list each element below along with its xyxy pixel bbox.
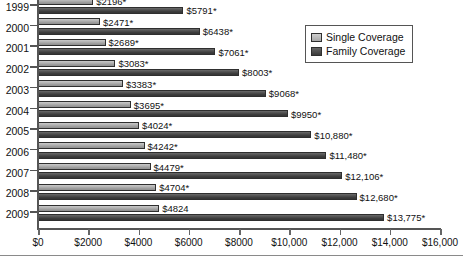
- bar-label-family-2008: $12,680*: [360, 193, 398, 202]
- year-label-2005: 2005: [0, 126, 29, 137]
- x-tick-10000: [289, 229, 291, 235]
- x-label-10000: $10,000: [271, 237, 307, 248]
- year-tick-2001: [30, 45, 37, 47]
- bar-family-2000: [38, 28, 200, 35]
- bar-label-single-2005: $4024*: [142, 121, 172, 130]
- bar-label-single-2004: $3695*: [134, 101, 164, 110]
- year-label-1999: 1999: [0, 2, 29, 13]
- x-label-16000: $16,000: [422, 237, 458, 248]
- bar-label-family-2005: $10,880*: [314, 131, 352, 140]
- x-tick-6000: [189, 229, 191, 235]
- year-tick-2004: [30, 108, 37, 110]
- chart-legend: Single Coverage Family Coverage: [305, 25, 413, 63]
- year-tick-2006: [30, 149, 37, 151]
- x-label-0: $0: [32, 237, 43, 248]
- legend-item-single: Single Coverage: [311, 30, 405, 44]
- bar-chart: $2196*$5791*$2471*$6438*$2689*$7061*$308…: [0, 0, 463, 258]
- bar-label-family-2006: $11,480*: [329, 151, 366, 160]
- legend-swatch-family-icon: [311, 47, 322, 56]
- x-tick-12000: [340, 229, 342, 235]
- bar-single-2001: [38, 39, 106, 46]
- bar-label-family-2002: $8003*: [242, 68, 272, 77]
- year-tick-2003: [30, 87, 37, 89]
- x-tick-0: [38, 229, 40, 235]
- year-label-2009: 2009: [0, 209, 29, 220]
- x-label-12000: $12,000: [321, 237, 357, 248]
- year-tick-2007: [30, 170, 37, 172]
- x-label-4000: $4000: [125, 237, 153, 248]
- legend-label-family: Family Coverage: [326, 45, 405, 57]
- bar-single-2008: [38, 184, 156, 191]
- bar-label-family-2000: $6438*: [203, 27, 233, 36]
- year-label-2007: 2007: [0, 168, 29, 179]
- bar-label-single-2001: $2689*: [109, 38, 139, 47]
- bar-family-1999: [38, 7, 183, 14]
- bar-label-single-2008: $4704*: [159, 183, 189, 192]
- bar-label-single-2007: $4479*: [154, 163, 184, 172]
- x-tick-16000: [440, 229, 442, 235]
- page-rule: [0, 255, 463, 256]
- bar-label-family-2003: $9068*: [269, 89, 299, 98]
- x-tick-8000: [239, 229, 241, 235]
- bar-label-single-2000: $2471*: [103, 18, 133, 27]
- x-tick-14000: [390, 229, 392, 235]
- bar-family-2009: [38, 214, 384, 221]
- year-tick-2009: [30, 211, 37, 213]
- year-label-2006: 2006: [0, 147, 29, 158]
- bar-family-2001: [38, 48, 215, 55]
- x-label-6000: $6000: [175, 237, 203, 248]
- year-label-2000: 2000: [0, 23, 29, 34]
- year-label-2001: 2001: [0, 43, 29, 54]
- legend-label-single: Single Coverage: [326, 31, 404, 43]
- year-label-2003: 2003: [0, 85, 29, 96]
- year-tick-2008: [30, 190, 37, 192]
- bar-family-2008: [38, 193, 357, 200]
- bar-family-2006: [38, 152, 326, 159]
- bar-single-2005: [38, 122, 139, 129]
- x-tick-4000: [139, 229, 141, 235]
- bar-family-2002: [38, 69, 239, 76]
- year-tick-2005: [30, 128, 37, 130]
- year-tick-2000: [30, 25, 37, 27]
- year-label-2002: 2002: [0, 64, 29, 75]
- bar-label-family-2007: $12,106*: [345, 172, 383, 181]
- bar-label-family-2004: $9950*: [291, 110, 321, 119]
- bar-single-2007: [38, 163, 151, 170]
- year-tick-2002: [30, 66, 37, 68]
- legend-swatch-single-icon: [311, 33, 322, 42]
- bar-family-2004: [38, 110, 288, 117]
- bar-label-family-1999: $5791*: [186, 6, 216, 15]
- x-label-14000: $14,000: [372, 237, 408, 248]
- bar-family-2007: [38, 172, 342, 179]
- bar-label-single-1999: $2196*: [96, 0, 126, 6]
- bar-single-2003: [38, 80, 123, 87]
- bar-label-family-2001: $7061*: [218, 48, 248, 57]
- bar-single-2000: [38, 18, 100, 25]
- bar-single-2009: [38, 205, 159, 212]
- bar-label-single-2009: $4824: [162, 204, 188, 213]
- x-label-8000: $8000: [225, 237, 253, 248]
- bar-label-single-2006: $4242*: [148, 142, 178, 151]
- bar-label-single-2002: $3083*: [118, 59, 148, 68]
- bar-label-single-2003: $3383*: [126, 80, 156, 89]
- bar-family-2005: [38, 131, 311, 138]
- bar-single-2004: [38, 101, 131, 108]
- bar-single-1999: [38, 0, 93, 5]
- year-label-2004: 2004: [0, 106, 29, 117]
- bar-single-2002: [38, 60, 115, 67]
- bar-single-2006: [38, 142, 145, 149]
- year-tick-1999: [30, 4, 37, 6]
- year-label-2008: 2008: [0, 188, 29, 199]
- bar-family-2003: [38, 90, 266, 97]
- bar-label-family-2009: $13,775*: [387, 213, 425, 222]
- category-axis-line: [37, 0, 39, 229]
- legend-item-family: Family Coverage: [311, 44, 405, 58]
- x-tick-2000: [88, 229, 90, 235]
- x-label-2000: $2000: [74, 237, 102, 248]
